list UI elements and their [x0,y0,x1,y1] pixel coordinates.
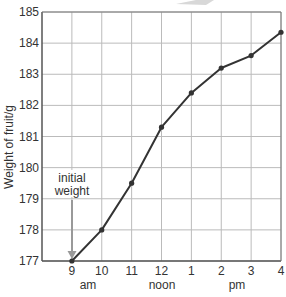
y-tick-label: 182 [19,98,39,112]
x-tick-label: 4 [278,264,285,278]
data-point [219,65,224,70]
annotation-weight: weight [54,184,90,198]
x-tick-label: 12 [155,264,169,278]
page-curl-decoration [176,0,214,5]
y-tick-label: 179 [19,192,39,206]
grid-lines [42,12,281,261]
y-tick-label: 181 [19,130,39,144]
y-tick-label: 185 [19,5,39,19]
data-point [189,90,194,95]
y-tick-label: 183 [19,67,39,81]
x-tick-label: 2 [218,264,225,278]
x-tick-label: 1 [188,264,195,278]
x-tick-label: 9 [69,264,76,278]
y-tick-label: 178 [19,223,39,237]
line-chart: 177178179180181182183184185 91011121234 … [0,0,286,297]
x-tick-labels: 91011121234 [69,264,285,278]
data-point [249,53,254,58]
data-point [69,258,74,263]
y-tick-label: 180 [19,161,39,175]
x-group-label-pm: pm [229,278,246,292]
x-tick-label: 10 [95,264,109,278]
series-line [72,32,281,261]
x-tick-label: 3 [248,264,255,278]
data-point [99,227,104,232]
y-tick-labels: 177178179180181182183184185 [19,5,39,268]
data-point [159,125,164,130]
x-tick-label: 11 [125,264,138,278]
data-point [129,181,134,186]
data-point [278,30,283,35]
x-group-label-am: am [80,278,97,292]
annotation-initial: initial [58,171,85,185]
x-group-label-noon: noon [149,278,176,292]
y-tick-label: 184 [19,36,39,50]
y-tick-label: 177 [19,254,39,268]
y-axis-label: Weight of fruit/g [2,105,16,189]
